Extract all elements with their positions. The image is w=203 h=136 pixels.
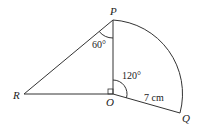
label-P: P <box>109 5 117 17</box>
geometry-diagram: P O R Q 60° 120° 7 cm <box>0 0 203 136</box>
angle-label-60: 60° <box>92 39 106 50</box>
length-label-OQ: 7 cm <box>144 92 164 103</box>
segment-RP <box>24 20 113 94</box>
right-angle-mark <box>108 89 113 94</box>
angle-mark-P <box>99 32 113 39</box>
angle-mark-O <box>113 80 127 98</box>
angle-label-120: 120° <box>122 70 141 81</box>
label-O: O <box>106 96 114 108</box>
label-R: R <box>12 89 20 101</box>
label-Q: Q <box>182 112 190 124</box>
